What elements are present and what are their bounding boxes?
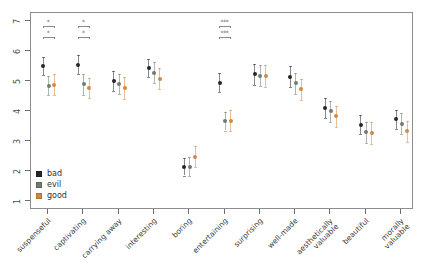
significance-bracket-line xyxy=(43,37,54,38)
error-bar-cap xyxy=(153,83,156,84)
error-bar-cap xyxy=(365,122,368,123)
data-point xyxy=(41,64,45,68)
significance-marker: * xyxy=(38,30,58,36)
error-bar-cap xyxy=(406,121,409,122)
data-point xyxy=(405,129,409,133)
error-bar-cap xyxy=(400,134,403,135)
significance-bracket-tick xyxy=(219,37,220,39)
error-bar-cap xyxy=(88,98,91,99)
data-point xyxy=(264,74,268,78)
error-bar-cap xyxy=(294,94,297,95)
significance-bracket-tick xyxy=(54,37,55,39)
data-point xyxy=(223,119,227,123)
data-point xyxy=(299,87,303,91)
error-bar-cap xyxy=(359,115,362,116)
error-bar-cap xyxy=(158,68,161,69)
error-bar-cap xyxy=(158,89,161,90)
x-axis-tick-label: aesthetically valuable xyxy=(296,217,341,262)
error-bar-cap xyxy=(218,92,221,93)
x-axis-tick xyxy=(153,209,154,214)
error-bar-cap xyxy=(123,99,126,100)
error-bar-cap xyxy=(229,110,232,111)
x-axis-tick-label: well-made xyxy=(267,217,301,251)
error-bar-cap xyxy=(188,157,191,158)
error-bar-cap xyxy=(370,122,373,123)
error-bar-cap xyxy=(218,73,221,74)
error-bar-cap xyxy=(47,76,50,77)
data-point xyxy=(253,72,257,76)
significance-bracket-tick xyxy=(230,26,231,28)
error-bar-cap xyxy=(264,65,267,66)
error-bar-cap xyxy=(42,75,45,76)
error-bar-cap xyxy=(82,74,85,75)
legend-label: evil xyxy=(47,179,61,190)
error-bar-cap xyxy=(112,71,115,72)
significance-bracket-tick xyxy=(230,37,231,39)
x-axis-tick xyxy=(365,209,366,214)
x-axis-tick xyxy=(82,209,83,214)
error-bar-cap xyxy=(359,134,362,135)
error-bar-cap xyxy=(147,77,150,78)
data-point xyxy=(158,77,162,81)
x-axis-tick xyxy=(188,209,189,214)
error-bar-cap xyxy=(289,87,292,88)
data-point xyxy=(87,86,91,90)
significance-bracket-line xyxy=(78,26,89,27)
error-bar-cap xyxy=(188,176,191,177)
significance-bracket-tick xyxy=(219,26,220,28)
legend-swatch xyxy=(36,182,42,188)
error-bar-cap xyxy=(406,142,409,143)
error-bar-cap xyxy=(335,127,338,128)
data-point xyxy=(323,106,327,110)
data-point xyxy=(334,114,338,118)
x-axis-tick-label: surprising xyxy=(233,217,265,249)
x-axis-tick-label: morally valuable xyxy=(377,217,411,251)
legend-item: bad xyxy=(36,168,67,179)
error-bar-cap xyxy=(335,106,338,107)
data-point xyxy=(82,82,86,86)
legend-swatch xyxy=(36,171,42,177)
significance-bracket-tick xyxy=(78,37,79,39)
data-point xyxy=(47,84,51,88)
error-bar-cap xyxy=(253,85,256,86)
data-point xyxy=(76,63,80,67)
chart-figure: ********** 1234567 suspensefulcaptivatin… xyxy=(0,0,436,274)
data-point xyxy=(294,81,298,85)
x-axis-tick xyxy=(47,209,48,214)
data-point xyxy=(229,119,233,123)
data-point xyxy=(117,82,121,86)
error-bar-cap xyxy=(118,74,121,75)
error-bar-cap xyxy=(77,55,80,56)
data-point xyxy=(329,109,333,113)
x-axis-tick-label: suspenseful xyxy=(15,217,53,255)
chart-legend: badevilgood xyxy=(36,168,67,201)
data-point xyxy=(112,79,116,83)
data-point xyxy=(258,74,262,78)
x-axis-tick-label: boring xyxy=(171,217,194,240)
x-axis: suspensefulcaptivatingcarrying awayinter… xyxy=(0,209,436,274)
significance-marker: *** xyxy=(215,19,235,25)
significance-bracket-tick xyxy=(89,37,90,39)
error-bar-cap xyxy=(395,110,398,111)
error-bar-cap xyxy=(365,143,368,144)
error-bar-cap xyxy=(264,87,267,88)
data-point xyxy=(182,165,186,169)
error-bar-cap xyxy=(183,158,186,159)
error-bar-cap xyxy=(42,57,45,58)
error-bar-cap xyxy=(194,146,197,147)
data-point xyxy=(188,165,192,169)
x-axis-tick xyxy=(400,209,401,214)
x-axis-tick-label: interesting xyxy=(124,217,159,252)
error-bar-cap xyxy=(53,74,56,75)
significance-bracket-tick xyxy=(43,26,44,28)
x-axis-tick xyxy=(329,209,330,214)
y-axis-tick-label: 1 xyxy=(18,201,26,206)
significance-bracket-line xyxy=(78,37,89,38)
error-bar-cap xyxy=(118,94,121,95)
significance-bracket-line xyxy=(43,26,54,27)
plot-area: ********** xyxy=(30,12,413,209)
error-bar-cap xyxy=(82,95,85,96)
error-bar-cap xyxy=(53,95,56,96)
error-bar-cap xyxy=(329,122,332,123)
legend-swatch xyxy=(36,193,42,199)
